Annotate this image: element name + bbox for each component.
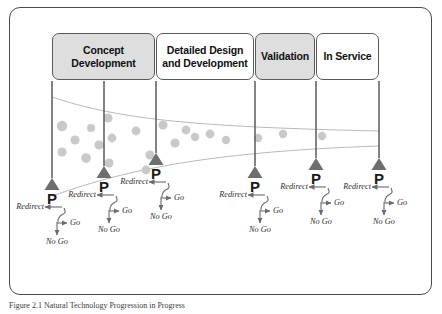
redirect-hook — [162, 183, 169, 197]
option-dot — [81, 153, 91, 163]
gate-5-go-label: Go — [334, 198, 344, 207]
phase-box-label: In Service — [323, 50, 371, 62]
redirect-hook — [110, 196, 117, 210]
gate-2-go-label: Go — [122, 206, 132, 215]
option-dot — [94, 140, 103, 149]
gate-4-p-label: P — [245, 179, 265, 194]
option-dot — [57, 147, 66, 156]
option-dot — [206, 130, 215, 139]
option-dot — [170, 138, 179, 147]
option-dot — [87, 124, 95, 132]
gate-2-no-go-label: No Go — [91, 225, 127, 234]
option-dot — [158, 120, 167, 129]
gate-triangle[interactable] — [45, 178, 60, 190]
gate-triangle[interactable] — [372, 158, 387, 170]
gate-triangle[interactable] — [248, 166, 263, 178]
phase-box-label: Validation — [261, 50, 309, 62]
gate-6-no-go-label: No Go — [366, 217, 402, 226]
option-dot — [70, 135, 79, 144]
option-dot — [279, 130, 287, 138]
gate-1-no-go-label: No Go — [39, 237, 75, 246]
phase-box-4[interactable]: In Service — [316, 33, 379, 80]
option-dot — [57, 121, 67, 131]
gate-6-p-label: P — [369, 171, 389, 186]
gate-triangle[interactable] — [309, 158, 324, 170]
figure-container: Concept DevelopmentDetailed Design and D… — [0, 0, 442, 314]
option-dot — [182, 126, 191, 135]
option-dot — [103, 113, 112, 122]
redirect-hook — [58, 208, 65, 222]
figure-caption: Figure 2.1 Natural Technology Progressio… — [9, 301, 185, 310]
phase-box-label: Concept Development — [55, 44, 152, 68]
option-dot — [104, 158, 113, 167]
gate-6-go-label: Go — [397, 198, 407, 207]
gate-1-go-label: Go — [70, 218, 80, 227]
redirect-hook — [261, 196, 268, 210]
gate-4-no-go-label: No Go — [242, 225, 278, 234]
gate-5-p-label: P — [306, 171, 326, 186]
gate-3-redirect-label: Redirect — [106, 177, 148, 186]
option-dot — [108, 134, 117, 143]
gate-4-go-label: Go — [273, 206, 283, 215]
option-dot — [318, 132, 326, 140]
option-dot — [132, 127, 141, 136]
gate-2-redirect-label: Redirect — [54, 190, 96, 199]
gate-5-redirect-label: Redirect — [266, 182, 308, 191]
phase-box-2[interactable]: Detailed Design and Development — [156, 33, 254, 80]
gate-5-no-go-label: No Go — [303, 217, 339, 226]
gate-1-redirect-label: Redirect — [2, 202, 44, 211]
option-dot — [191, 133, 199, 141]
option-dot — [222, 136, 230, 144]
gate-3-no-go-label: No Go — [143, 212, 179, 221]
funnel-upper-curve — [52, 97, 379, 131]
gate-3-p-label: P — [146, 166, 166, 181]
gate-3-go-label: Go — [174, 193, 184, 202]
phase-box-3[interactable]: Validation — [255, 33, 315, 80]
phase-box-1[interactable]: Concept Development — [52, 33, 155, 80]
phase-box-label: Detailed Design and Development — [159, 44, 251, 68]
redirect-hook — [385, 188, 392, 202]
gate-4-redirect-label: Redirect — [205, 190, 247, 199]
gate-6-redirect-label: Redirect — [329, 182, 371, 191]
